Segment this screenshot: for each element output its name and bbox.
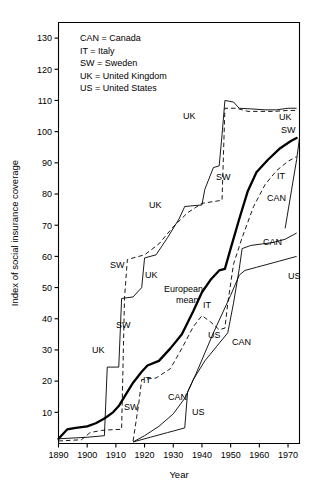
x-tick-label: 1940 bbox=[192, 450, 212, 460]
y-tick-label: 40 bbox=[42, 314, 52, 324]
y-tick-label: 90 bbox=[42, 158, 52, 168]
legend-entry: CAN = Canada bbox=[80, 33, 141, 43]
y-tick-label: 70 bbox=[42, 221, 52, 231]
y-tick-label: 30 bbox=[42, 345, 52, 355]
series-label-european: European bbox=[164, 284, 203, 294]
series-label-it: IT bbox=[277, 171, 286, 181]
y-tick-label: 50 bbox=[42, 283, 52, 293]
series-label-uk: UK bbox=[145, 270, 158, 280]
series-label-us: US bbox=[288, 271, 301, 281]
series-label-can: CAN bbox=[263, 237, 282, 247]
x-tick-label: 1900 bbox=[77, 450, 97, 460]
series-label-us: US bbox=[208, 330, 221, 340]
series-label-sw: SW bbox=[216, 172, 231, 182]
series-label-uk: UK bbox=[183, 111, 196, 121]
x-tick-label: 1960 bbox=[249, 450, 269, 460]
series-label-sw: SW bbox=[110, 260, 125, 270]
series-label-can: CAN bbox=[267, 193, 286, 203]
series-label-sw: SW bbox=[124, 402, 139, 412]
x-axis-title: Year bbox=[169, 469, 188, 480]
series-label-sw: SW bbox=[281, 125, 296, 135]
y-tick-label: 110 bbox=[38, 96, 52, 106]
y-tick-label: 120 bbox=[37, 65, 52, 75]
x-tick-label: 1970 bbox=[278, 450, 298, 460]
y-axis-title: Index of social insurance coverage bbox=[9, 160, 20, 306]
legend-entry: SW = Sweden bbox=[80, 58, 137, 68]
line-chart-svg: 102030405060708090100110120130 189019001… bbox=[0, 0, 321, 488]
series-label-uk: UK bbox=[149, 200, 162, 210]
x-tick-label: 1950 bbox=[221, 450, 241, 460]
series-label-sw: SW bbox=[116, 320, 131, 330]
series-label-mean: mean bbox=[176, 295, 199, 305]
series-label-can: CAN bbox=[168, 392, 187, 402]
series-label-can: CAN bbox=[232, 337, 251, 347]
y-tick-label: 130 bbox=[37, 33, 52, 43]
series-label-uk: UK bbox=[279, 112, 292, 122]
x-tick-label: 1890 bbox=[48, 450, 68, 460]
legend-entry: US = United States bbox=[80, 83, 157, 93]
series-label-uk: UK bbox=[92, 345, 105, 355]
x-tick-label: 1920 bbox=[135, 450, 155, 460]
y-tick-label: 100 bbox=[37, 127, 52, 137]
y-tick-label: 60 bbox=[42, 252, 52, 262]
x-tick-label: 1910 bbox=[106, 450, 126, 460]
series-label-it: IT bbox=[143, 375, 152, 385]
legend-entry: IT = Italy bbox=[80, 46, 115, 56]
legend-entry: UK = United Kingdom bbox=[80, 71, 167, 81]
series-label-it: IT bbox=[203, 300, 212, 310]
y-tick-label: 10 bbox=[42, 408, 52, 418]
y-tick-label: 20 bbox=[42, 376, 52, 386]
chart-figure: 102030405060708090100110120130 189019001… bbox=[0, 0, 321, 488]
y-tick-label: 80 bbox=[42, 189, 52, 199]
series-label-us: US bbox=[192, 407, 205, 417]
x-tick-label: 1930 bbox=[163, 450, 183, 460]
